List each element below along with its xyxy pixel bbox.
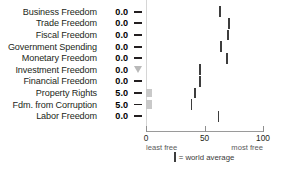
- world-average-tick: [199, 76, 201, 87]
- index-of-economic-freedom-chart: Business Freedom 0.0 Trade Freedom 0.0 F…: [0, 0, 281, 170]
- bar-row: [146, 99, 263, 111]
- bar-row: [146, 6, 263, 18]
- category-score: 5.0: [97, 100, 128, 110]
- category-row-business-freedom: Business Freedom 0.0: [0, 6, 146, 18]
- change-marker-dash-icon: [128, 11, 146, 13]
- world-average-tick: [228, 18, 230, 29]
- category-row-monetary-freedom: Monetary Freedom 0.0: [0, 52, 146, 64]
- change-marker-triangle-down-icon: [128, 66, 146, 73]
- world-average-tick: [191, 99, 193, 110]
- bar-row: [146, 64, 263, 76]
- category-row-labor-freedom: Labor Freedom 0.0: [0, 110, 146, 122]
- axis-tick: [263, 126, 264, 132]
- world-average-tick: [199, 64, 201, 75]
- change-marker-dash-icon: [128, 80, 146, 82]
- category-label: Fdm. from Corruption: [13, 100, 97, 110]
- category-label: Trade Freedom: [36, 18, 97, 28]
- category-score: 0.0: [97, 76, 128, 86]
- axis-tick-label: 50: [200, 133, 209, 143]
- bar-row: [146, 29, 263, 41]
- bar-row: [146, 18, 263, 30]
- world-average-tick: [220, 41, 222, 52]
- legend: = world average: [174, 152, 234, 162]
- change-marker-dash-icon: [128, 22, 146, 24]
- bar-row: [146, 76, 263, 88]
- change-marker-dash-icon: [128, 57, 146, 59]
- x-axis-ticks: [146, 126, 263, 132]
- axis-end-label-most-free: most free: [231, 143, 263, 152]
- category-row-property-rights: Property Rights 5.0: [0, 87, 146, 99]
- category-label: Fiscal Freedom: [36, 30, 97, 40]
- category-label: Business Freedom: [23, 7, 97, 17]
- category-row-fdm-from-corruption: Fdm. from Corruption 5.0: [0, 99, 146, 111]
- change-marker-dash-icon: [128, 46, 146, 48]
- world-average-tick: [219, 6, 221, 17]
- category-score: 0.0: [97, 30, 128, 40]
- category-label: Property Rights: [36, 88, 97, 98]
- plot-area: least free most free 050100 = world aver…: [146, 0, 281, 170]
- world-average-tick: [218, 111, 220, 122]
- axis-tick-label: 100: [256, 133, 270, 143]
- bar-series: [146, 6, 263, 122]
- category-score: 5.0: [97, 88, 128, 98]
- bar-fill: [146, 89, 152, 97]
- category-label: Government Spending: [8, 42, 97, 52]
- axis-end-label-least-free: least free: [146, 143, 177, 152]
- bar-row: [146, 110, 263, 122]
- world-average-tick: [226, 53, 228, 64]
- legend-world-average-tick-icon: [174, 152, 176, 162]
- category-score: 0.0: [97, 53, 128, 63]
- category-row-financial-freedom: Financial Freedom 0.0: [0, 76, 146, 88]
- bar-fill: [146, 100, 152, 108]
- bar-row: [146, 87, 263, 99]
- world-average-tick: [227, 30, 229, 41]
- category-score: 0.0: [97, 111, 128, 121]
- category-row-trade-freedom: Trade Freedom 0.0: [0, 18, 146, 30]
- change-marker-dash-icon: [128, 115, 146, 117]
- bar-row: [146, 41, 263, 53]
- category-label: Investment Freedom: [15, 65, 97, 75]
- bar-row: [146, 52, 263, 64]
- category-label: Labor Freedom: [36, 111, 97, 121]
- category-row-investment-freedom: Investment Freedom 0.0: [0, 64, 146, 76]
- change-marker-dash-icon: [128, 104, 146, 106]
- axis-tick: [146, 126, 147, 132]
- category-rows: Business Freedom 0.0 Trade Freedom 0.0 F…: [0, 6, 146, 122]
- axis-tick-label: 0: [144, 133, 149, 143]
- category-score: 0.0: [97, 42, 128, 52]
- category-score: 0.0: [97, 18, 128, 28]
- category-score: 0.0: [97, 65, 128, 75]
- world-average-tick: [194, 88, 196, 99]
- change-marker-dash-icon: [128, 92, 146, 94]
- category-row-government-spending: Government Spending 0.0: [0, 41, 146, 53]
- category-label: Monetary Freedom: [22, 53, 97, 63]
- category-score: 0.0: [97, 7, 128, 17]
- category-label: Financial Freedom: [23, 76, 97, 86]
- axis-tick: [205, 126, 206, 132]
- legend-label: = world average: [179, 153, 235, 162]
- change-marker-dash-icon: [128, 34, 146, 36]
- category-row-fiscal-freedom: Fiscal Freedom 0.0: [0, 29, 146, 41]
